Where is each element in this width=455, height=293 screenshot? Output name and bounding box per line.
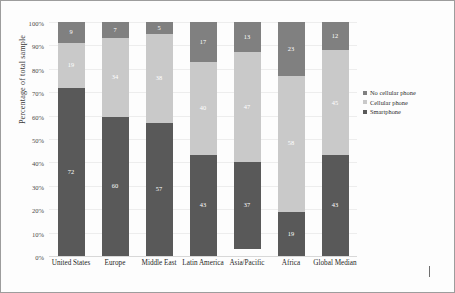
bar-segment[interactable]: 9 <box>58 22 85 43</box>
chart-legend: No cellular phoneCellular phoneSmartphon… <box>363 89 416 115</box>
bar-segment[interactable]: 58 <box>278 76 305 212</box>
legend-item[interactable]: Cellular phone <box>363 99 416 106</box>
bar-column[interactable]: 235819 <box>269 22 313 256</box>
x-tick-label: Europe <box>93 259 137 269</box>
bar-stack[interactable]: 235819 <box>278 22 305 256</box>
legend-label: Cellular phone <box>370 99 408 106</box>
x-tick-label: Asia/Pacific <box>225 259 269 269</box>
y-tick-label: 70% <box>32 90 44 97</box>
legend-swatch-icon <box>363 110 367 114</box>
y-tick-label: 50% <box>32 137 44 144</box>
bar-segment[interactable]: 19 <box>58 43 85 87</box>
bar-value-label: 9 <box>69 29 72 35</box>
y-tick-label: 60% <box>32 113 44 120</box>
legend-swatch-icon <box>363 91 367 95</box>
bar-segment[interactable]: 5 <box>146 22 173 34</box>
bar-value-label: 19 <box>288 231 294 237</box>
bar-column[interactable]: 134737 <box>225 22 269 256</box>
bar-segment[interactable]: 40 <box>190 62 217 156</box>
bar-stack[interactable]: 73460 <box>102 22 129 256</box>
bar-value-label: 13 <box>244 34 250 40</box>
y-tick-label: 100% <box>29 20 44 27</box>
stacked-bar-chart: Percentage of total sample 100%90%80%70%… <box>0 0 455 293</box>
bar-column[interactable]: 124543 <box>313 22 357 256</box>
bar-value-label: 37 <box>244 202 250 208</box>
bar-value-label: 12 <box>332 33 338 39</box>
bar-segment[interactable]: 47 <box>234 52 261 162</box>
x-axis-labels: United StatesEuropeMiddle EastLatin Amer… <box>49 259 357 269</box>
bar-segment[interactable]: 7 <box>102 22 129 38</box>
bar-value-label: 19 <box>68 62 74 68</box>
bar-segment[interactable]: 38 <box>146 34 173 123</box>
bar-column[interactable]: 73460 <box>93 22 137 256</box>
bar-value-label: 58 <box>288 140 294 146</box>
bar-stack[interactable]: 174043 <box>190 22 217 256</box>
text-caret <box>429 266 430 277</box>
bar-stack[interactable]: 53857 <box>146 22 173 256</box>
y-tick-label: 0% <box>35 254 44 261</box>
bar-value-label: 17 <box>200 39 206 45</box>
x-tick-label: United States <box>49 259 93 269</box>
bar-value-label: 57 <box>156 186 162 192</box>
bar-value-label: 38 <box>156 75 162 81</box>
gridline: 0% <box>49 256 357 257</box>
bar-value-label: 43 <box>200 202 206 208</box>
bar-column[interactable]: 91972 <box>49 22 93 256</box>
bar-segment[interactable]: 34 <box>102 38 129 117</box>
bar-value-label: 60 <box>112 183 118 189</box>
bar-segment[interactable]: 43 <box>190 155 217 256</box>
legend-swatch-icon <box>363 100 367 104</box>
y-tick-label: 80% <box>32 66 44 73</box>
bar-segment[interactable]: 13 <box>234 22 261 52</box>
bar-stack[interactable]: 124543 <box>322 22 349 256</box>
bar-value-label: 45 <box>332 100 338 106</box>
y-tick-label: 30% <box>32 183 44 190</box>
bar-value-label: 72 <box>68 169 74 175</box>
legend-label: Smartphone <box>370 108 401 115</box>
bar-column[interactable]: 174043 <box>181 22 225 256</box>
bar-value-label: 7 <box>113 27 116 33</box>
bar-segment[interactable]: 23 <box>278 22 305 76</box>
y-tick-label: 10% <box>32 230 44 237</box>
bar-value-label: 23 <box>288 46 294 52</box>
bar-segment[interactable]: 19 <box>278 212 305 256</box>
bar-segment[interactable]: 37 <box>234 162 261 249</box>
plot-area: 100%90%80%70%60%50%40%30%20%10%0% 919727… <box>49 22 357 256</box>
x-tick-label: Africa <box>269 259 313 269</box>
y-tick-label: 40% <box>32 160 44 167</box>
bar-segment[interactable]: 12 <box>322 22 349 50</box>
bar-stack[interactable]: 91972 <box>58 22 85 256</box>
bar-value-label: 40 <box>200 105 206 111</box>
bar-value-label: 34 <box>112 74 118 80</box>
bar-segment[interactable]: 17 <box>190 22 217 62</box>
x-tick-label: Global Median <box>313 259 357 269</box>
y-tick-label: 90% <box>32 43 44 50</box>
bar-series-layer: 919727346053857174043134737235819124543 <box>49 22 357 256</box>
legend-label: No cellular phone <box>370 89 416 96</box>
y-tick-label: 20% <box>32 207 44 214</box>
x-tick-label: Middle East <box>137 259 181 269</box>
bar-segment[interactable]: 45 <box>322 50 349 155</box>
bar-stack[interactable]: 134737 <box>234 22 261 256</box>
legend-item[interactable]: Smartphone <box>363 108 416 115</box>
bar-value-label: 47 <box>244 104 250 110</box>
x-tick-label: Latin America <box>181 259 225 269</box>
legend-item[interactable]: No cellular phone <box>363 89 416 96</box>
y-axis-title: Percentage of total sample <box>18 5 27 155</box>
bar-segment[interactable]: 57 <box>146 123 173 256</box>
bar-value-label: 5 <box>157 25 160 31</box>
bar-segment[interactable]: 43 <box>322 155 349 256</box>
bar-value-label: 43 <box>332 202 338 208</box>
bar-column[interactable]: 53857 <box>137 22 181 256</box>
bar-segment[interactable]: 60 <box>102 117 129 256</box>
bar-segment[interactable]: 72 <box>58 88 85 256</box>
